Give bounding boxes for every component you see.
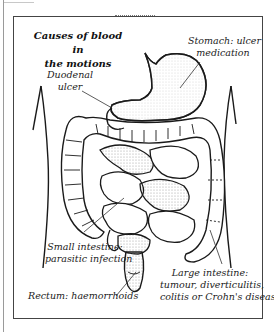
label-large-intestine-line3: colitis or Crohn's disease (160, 291, 260, 303)
small-intestine (100, 145, 198, 254)
body-outline-right (224, 86, 236, 268)
label-large-intestine: Large intestine: tumour, diverticulitis,… (160, 267, 260, 303)
label-duodenal-line2: ulcer (45, 81, 95, 93)
label-large-intestine-line1: Large intestine: (160, 267, 260, 279)
title-line-1: Causes of blood in (28, 29, 128, 57)
label-stomach: Stomach: ulcer medication (188, 35, 258, 59)
label-large-intestine-line2: tumour, diverticulitis, (160, 279, 260, 291)
diagram-title: Causes of blood in the motions (28, 29, 128, 71)
label-duodenal-line1: Duodenal (45, 69, 95, 81)
label-duodenal-ulcer: Duodenal ulcer (45, 69, 95, 93)
label-small-intestine-line2: parasitic infection (45, 253, 125, 265)
label-stomach-line1: Stomach: ulcer (188, 35, 258, 47)
label-rectum: Rectum: haemorrhoids (28, 290, 138, 302)
label-small-intestine: Small intestine: parasitic infection (45, 241, 125, 265)
label-small-intestine-line1: Small intestine: (45, 241, 125, 253)
label-stomach-line2: medication (188, 47, 258, 59)
